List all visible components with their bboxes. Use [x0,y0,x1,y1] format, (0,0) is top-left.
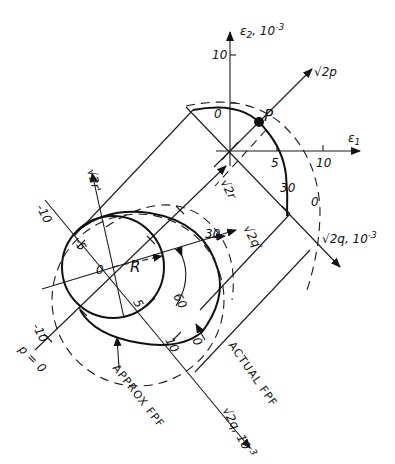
radius-label: R [130,258,140,276]
q-axis-upper-label: √2q, 10-3 [322,230,377,246]
tick-0-label: 0 [189,335,205,349]
e1-tick-10-label: 10 [316,156,332,170]
fpf-diagram: ε2, 10-3 10 ε1 5 10 √2p P 0 30 0 √2q, 10… [0,0,395,464]
point-p [254,117,264,127]
p-axis-label: √2p [314,65,337,79]
projection-lines [74,110,310,372]
p-zero-label: p = 0 [15,342,49,376]
q-prime-axis-label: √2q' [240,223,265,253]
tick-10-label: 10 [162,335,182,355]
q-tick-30-label: 30 [280,181,296,195]
point-p-label: P [264,107,274,125]
q-tick-0-right-label: 0 [311,195,319,209]
q-tick-30-upper [282,206,290,214]
tick-neg10-upper-label: -10 [33,202,55,226]
angle-60-label: 60 [170,291,190,311]
approx-yield-arc-upper [186,102,320,290]
e1-axis-label: ε1 [348,131,360,147]
q-axis-lower-label: √2q, 10-3 [219,404,259,460]
q-tick-0-top-label: 0 [214,107,222,121]
r-prime-axis-ext [113,267,124,318]
e2-tick-10-label: 10 [212,48,228,62]
actual-fpf-label: ACTUAL FPF [226,339,280,409]
projection-line-3 [195,250,310,372]
lower-origin-label: 0 [96,263,104,277]
r-prime-axis-label: √2r' [84,167,104,193]
tick-neg10-lower-label: -10 [29,321,51,345]
approx-fpf-label: APPROX FPF [110,362,167,430]
e2-axis-label: ε2, 10-3 [240,22,284,40]
e1-tick-5-label: 5 [271,156,279,170]
dashed-inner-arc [106,205,233,300]
r-axis-label: √2r [217,177,239,202]
q-prime-tick-30: 30 [205,227,221,241]
